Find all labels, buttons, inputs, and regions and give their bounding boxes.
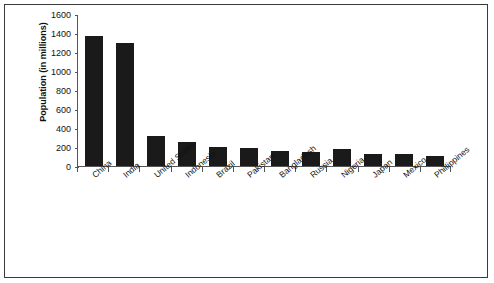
x-axis-category-labels: ChinaIndiaUnited StatesIndonesiaBrazilPa… bbox=[77, 172, 451, 224]
y-axis-tick-labels: 16001400120010008006004002000 bbox=[33, 15, 75, 167]
y-axis-tick-label: 600 bbox=[56, 105, 71, 115]
bar-slot bbox=[327, 15, 358, 166]
screenshot-page: Population (in millions) 160014001200100… bbox=[0, 0, 494, 283]
bar bbox=[147, 136, 165, 166]
bar-slot bbox=[420, 15, 451, 166]
y-axis-tick-label: 0 bbox=[66, 162, 71, 172]
plot-area bbox=[77, 15, 451, 167]
bar-slot bbox=[109, 15, 140, 166]
bar-slot bbox=[78, 15, 109, 166]
y-axis-tick-label: 800 bbox=[56, 86, 71, 96]
bar bbox=[85, 36, 103, 166]
bar-slot bbox=[358, 15, 389, 166]
bar-slot bbox=[202, 15, 233, 166]
y-axis-tick-label: 1600 bbox=[51, 10, 71, 20]
bar-chart-figure: Population (in millions) 160014001200100… bbox=[19, 15, 479, 225]
document-frame: Population (in millions) 160014001200100… bbox=[4, 4, 488, 278]
bar-slot bbox=[233, 15, 264, 166]
y-axis-tick-label: 200 bbox=[56, 143, 71, 153]
y-axis-tick-label: 400 bbox=[56, 124, 71, 134]
y-axis-tick-label: 1000 bbox=[51, 67, 71, 77]
bar-slot bbox=[389, 15, 420, 166]
bar-slot bbox=[140, 15, 171, 166]
bar-series bbox=[78, 15, 451, 166]
bar-slot bbox=[264, 15, 295, 166]
bar bbox=[116, 43, 134, 166]
y-axis-tick-label: 1200 bbox=[51, 48, 71, 58]
y-axis-tick-label: 1400 bbox=[51, 29, 71, 39]
